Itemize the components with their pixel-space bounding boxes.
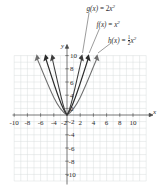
y-tick-label: 10 — [70, 52, 78, 60]
x-tick-label: 8 — [118, 119, 122, 127]
parabola-comparison-graph: -10 -8 -6 -4 -2 2 4 6 8 10 10 8 6 4 2 -2… — [0, 0, 164, 188]
y-tick-label: -4 — [69, 131, 75, 139]
y-tick-label: -6 — [69, 145, 75, 153]
y-tick-label: 8 — [70, 65, 74, 73]
x-tick-label: 2 — [78, 119, 82, 127]
annotation-f-function: f(x) — [97, 21, 107, 29]
y-tick-label: 6 — [70, 79, 74, 87]
x-tick-label: -8 — [24, 119, 30, 127]
y-tick-label: -8 — [69, 158, 75, 166]
x-tick-label: 10 — [130, 119, 138, 127]
x-tick-label: 4 — [92, 119, 96, 127]
y-tick-label: -10 — [66, 171, 76, 179]
x-tick-label: -6 — [38, 119, 44, 127]
y-tick-label: -2 — [69, 118, 75, 126]
annotation-f: f(x) = x2 — [97, 20, 120, 30]
annotation-g-equals: = — [100, 5, 104, 13]
annotation-g-function: g(x) — [87, 5, 99, 13]
y-tick-label: 4 — [70, 92, 74, 100]
x-tick-label: 6 — [105, 119, 109, 127]
annotation-h: h(x) = 1 2 x2 — [108, 35, 136, 47]
annotation-h-function: h(x) — [108, 37, 120, 45]
annotation-h-equals: = — [121, 37, 125, 45]
x-tick-label: -2 — [61, 119, 67, 127]
annotation-h-exponent: 2 — [134, 35, 137, 40]
y-tick-label: 2 — [70, 105, 74, 113]
annotation-f-equals: = — [108, 21, 112, 29]
x-tick-label: -4 — [51, 119, 57, 127]
annotation-f-exponent: 2 — [117, 20, 120, 25]
x-tick-label: -10 — [10, 119, 20, 127]
annotation-g: g(x) = 2x2 — [87, 4, 116, 14]
annotation-g-exponent: 2 — [113, 4, 116, 9]
